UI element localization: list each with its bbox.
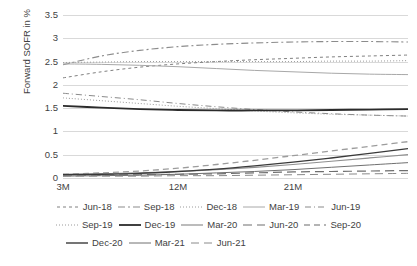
legend-item-dec-19[interactable]: Dec-19 xyxy=(119,220,176,230)
plot-area xyxy=(63,15,408,178)
legend-swatch-jun-19 xyxy=(305,203,327,211)
x-axis-tick-labels: 3M12M21M xyxy=(63,181,408,195)
legend-label: Sep-19 xyxy=(82,220,113,230)
series-line-sep-20 xyxy=(63,142,408,175)
legend-item-sep-19[interactable]: Sep-19 xyxy=(56,220,113,230)
x-tick-label: 21M xyxy=(284,181,302,192)
legend-item-dec-18[interactable]: Dec-18 xyxy=(180,202,237,212)
legend-label: Dec-20 xyxy=(92,238,123,248)
legend-label: Mar-20 xyxy=(207,220,237,230)
y-tick-label: 2 xyxy=(2,80,58,90)
series-line-mar-19 xyxy=(63,64,408,75)
legend-swatch-sep-19 xyxy=(56,221,78,229)
legend-item-sep-18[interactable]: Sep-18 xyxy=(118,202,175,212)
y-tick-label: 3.5 xyxy=(2,10,58,20)
legend-swatch-mar-21 xyxy=(129,239,151,247)
y-tick-label: 3 xyxy=(2,33,58,43)
series-line-jun-19 xyxy=(63,93,408,116)
legend-item-sep-20[interactable]: Sep-20 xyxy=(304,220,361,230)
legend-swatch-jun-20 xyxy=(243,221,265,229)
legend-label: Mar-21 xyxy=(155,238,185,248)
legend-swatch-sep-20 xyxy=(304,221,326,229)
series-line-dec-18 xyxy=(63,61,408,63)
legend-swatch-sep-18 xyxy=(118,203,140,211)
legend-swatch-dec-20 xyxy=(66,239,88,247)
y-axis-tick-labels: 00.511.522.533.5 xyxy=(0,15,58,178)
series-line-mar-20 xyxy=(63,155,408,175)
series-lines xyxy=(63,15,408,178)
legend-label: Mar-19 xyxy=(269,202,299,212)
series-line-sep-19 xyxy=(63,98,408,116)
legend-item-jun-20[interactable]: Jun-20 xyxy=(243,220,298,230)
legend-swatch-dec-18 xyxy=(180,203,202,211)
y-tick-label: 1.5 xyxy=(2,103,58,113)
y-tick-label: 0.5 xyxy=(2,150,58,160)
chart-legend: Jun-18Sep-18Dec-18Mar-19Jun-19Sep-19Dec-… xyxy=(0,198,417,252)
legend-swatch-mar-20 xyxy=(181,221,203,229)
legend-label: Jun-20 xyxy=(269,220,298,230)
x-tick-label: 3M xyxy=(56,181,69,192)
series-line-sep-18 xyxy=(63,41,408,64)
legend-row: Dec-20Mar-21Jun-21 xyxy=(0,234,417,252)
legend-label: Sep-20 xyxy=(330,220,361,230)
series-line-dec-20 xyxy=(63,149,408,175)
legend-label: Sep-18 xyxy=(144,202,175,212)
legend-label: Jun-19 xyxy=(331,202,360,212)
legend-item-mar-19[interactable]: Mar-19 xyxy=(243,202,299,212)
legend-swatch-dec-19 xyxy=(119,221,141,229)
legend-swatch-jun-18 xyxy=(57,203,79,211)
legend-row: Jun-18Sep-18Dec-18Mar-19Jun-19 xyxy=(0,198,417,216)
y-tick-label: 1 xyxy=(2,126,58,136)
legend-item-mar-20[interactable]: Mar-20 xyxy=(181,220,237,230)
legend-row: Sep-19Dec-19Mar-20Jun-20Sep-20 xyxy=(0,216,417,234)
legend-label: Jun-18 xyxy=(83,202,112,212)
legend-label: Dec-18 xyxy=(206,202,237,212)
y-tick-label: 0 xyxy=(2,173,58,183)
legend-swatch-mar-19 xyxy=(243,203,265,211)
gridline xyxy=(63,178,408,179)
legend-item-jun-18[interactable]: Jun-18 xyxy=(57,202,112,212)
legend-item-mar-21[interactable]: Mar-21 xyxy=(129,238,185,248)
legend-item-jun-21[interactable]: Jun-21 xyxy=(191,238,246,248)
series-line-jun-18 xyxy=(63,55,408,78)
legend-item-dec-20[interactable]: Dec-20 xyxy=(66,238,123,248)
legend-swatch-jun-21 xyxy=(191,239,213,247)
legend-label: Dec-19 xyxy=(145,220,176,230)
legend-label: Jun-21 xyxy=(217,238,246,248)
forward-sofr-chart: Forward SOFR in % 00.511.522.533.5 3M12M… xyxy=(0,0,417,266)
y-tick-label: 2.5 xyxy=(2,57,58,67)
legend-item-jun-19[interactable]: Jun-19 xyxy=(305,202,360,212)
x-tick-label: 12M xyxy=(169,181,187,192)
